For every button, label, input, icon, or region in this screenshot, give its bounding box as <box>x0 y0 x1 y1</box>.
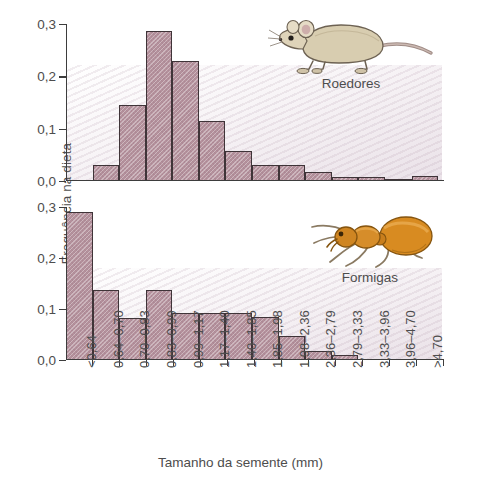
x-label-cell: 0,70–0,83 <box>119 366 146 458</box>
x-label-cell: 1,98–2,36 <box>279 366 306 458</box>
species-key-ant: Formigas <box>296 212 444 285</box>
x-tick-label: 0,64–0,70 <box>111 310 126 368</box>
x-tick-label: <0,64 <box>84 335 99 368</box>
x-label-cell: 1,17–1,40 <box>199 366 226 458</box>
x-label-cell: 3,96–4,70 <box>385 366 412 458</box>
y-axis-line-ants <box>66 207 67 360</box>
y-tick-label: 0,3 <box>37 17 56 32</box>
y-tick-mark <box>59 181 66 182</box>
x-tick-label: 3,96–4,70 <box>403 310 418 368</box>
bar-cell <box>172 24 199 181</box>
x-label-cell: <0,64 <box>66 366 93 458</box>
x-tick-label: 2,36–2,79 <box>323 310 338 368</box>
x-axis-title: Tamanho da semente (mm) <box>0 455 481 470</box>
x-tick-label: 3,33–3,96 <box>377 310 392 368</box>
bar <box>146 31 173 181</box>
x-label-cell: 0,64–0,70 <box>93 366 120 458</box>
y-tick-label: 0,1 <box>37 121 56 136</box>
bar <box>225 151 252 181</box>
y-tick-mark <box>59 309 66 310</box>
y-tick-mark <box>59 207 66 208</box>
bar-cell <box>66 24 93 181</box>
x-tick-label: >4,70 <box>430 335 445 368</box>
x-tick-label: 1,17–1,40 <box>217 310 232 368</box>
x-label-cell: 2,79–3,33 <box>332 366 359 458</box>
x-label-cell: 0,83–0,99 <box>146 366 173 458</box>
bar <box>119 105 146 181</box>
y-tick-mark <box>59 129 66 130</box>
bar-cell <box>119 24 146 181</box>
x-label-cell: 2,36–2,79 <box>305 366 332 458</box>
x-label-cell: 0,99–1,17 <box>172 366 199 458</box>
bar <box>172 61 199 181</box>
y-tick-label: 0,3 <box>37 200 56 215</box>
species-label-ant: Formigas <box>296 270 444 285</box>
x-tick-label: 0,99–1,17 <box>191 310 206 368</box>
bar <box>199 121 226 181</box>
species-key-rodent: Roedores <box>258 16 444 91</box>
y-tick-mark <box>59 76 66 77</box>
ant-icon <box>296 212 444 272</box>
x-tick-label: 2,79–3,33 <box>350 310 365 368</box>
species-label-rodent: Roedores <box>258 76 444 91</box>
figure-histogram-seed-size: Frequência na dieta ADAPTADA DE BROWN & … <box>0 0 481 501</box>
y-axis-line-rodents <box>66 24 67 181</box>
x-tick-label: 0,70–0,83 <box>137 310 152 368</box>
y-tick-mark <box>59 258 66 259</box>
x-label-cell: 1,40–1,85 <box>225 366 252 458</box>
y-tick-label: 0,1 <box>37 302 56 317</box>
y-tick-label: 0,0 <box>37 174 56 189</box>
y-tick-mark <box>59 24 66 25</box>
x-tick-label: 1,98–2,36 <box>297 310 312 368</box>
rodent-icon <box>258 16 444 78</box>
x-tick-label: 1,40–1,85 <box>244 310 259 368</box>
y-tick-label: 0,2 <box>37 69 56 84</box>
bar-cell <box>146 24 173 181</box>
x-label-cell: >4,70 <box>412 366 439 458</box>
x-label-cell: 1,85–1,98 <box>252 366 279 458</box>
bar-cell <box>199 24 226 181</box>
x-axis-tick-labels: <0,640,64–0,700,70–0,830,83–0,990,99–1,1… <box>66 366 438 458</box>
x-axis-line-rodents <box>66 180 444 181</box>
x-label-cell: 3,33–3,96 <box>358 366 385 458</box>
y-tick-label: 0,2 <box>37 251 56 266</box>
x-tick-label: 0,83–0,99 <box>164 310 179 368</box>
bar-cell <box>225 24 252 181</box>
y-tick-label: 0,0 <box>37 353 56 368</box>
y-tick-mark <box>59 360 66 361</box>
bar-cell <box>93 24 120 181</box>
x-tick-label: 1,85–1,98 <box>270 310 285 368</box>
